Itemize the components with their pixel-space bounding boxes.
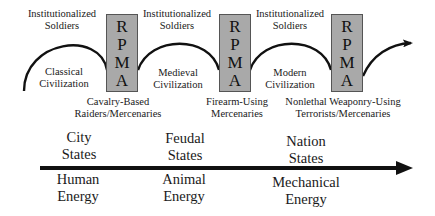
soldiers-label-1: InstitutionalizedSoldiers [28, 8, 96, 32]
state-city: CityStates [62, 129, 97, 164]
rpma-box-1: RP MA [106, 14, 138, 92]
mercenary-label-3: Nonlethal Weaponry-UsingTerrorists/Merce… [285, 96, 400, 120]
energy-human: HumanEnergy [57, 171, 100, 206]
state-nation: NationStates [286, 133, 325, 168]
state-feudal: FeudalStates [165, 130, 204, 165]
energy-mechanical: MechanicalEnergy [272, 174, 340, 209]
soldiers-label-3: InstitutionalizedSoldiers [256, 8, 324, 32]
civilization-modern: ModernCivilization [265, 67, 315, 91]
energy-animal: AnimalEnergy [162, 171, 206, 206]
rpma-box-2: RP MA [219, 14, 251, 92]
civilization-medieval: MedievalCivilization [153, 67, 203, 91]
mercenary-label-1: Cavalry-BasedRaiders/Mercenaries [75, 96, 162, 120]
civilization-classical: ClassicalCivilization [39, 66, 89, 90]
soldiers-label-2: InstitutionalizedSoldiers [143, 8, 211, 32]
cycle-arrow-future [363, 43, 411, 76]
mercenary-label-2: Firearm-UsingMercenaries [206, 96, 268, 120]
rpma-box-3: RP MA [331, 14, 363, 92]
timeline-arrowhead-icon [396, 161, 413, 175]
